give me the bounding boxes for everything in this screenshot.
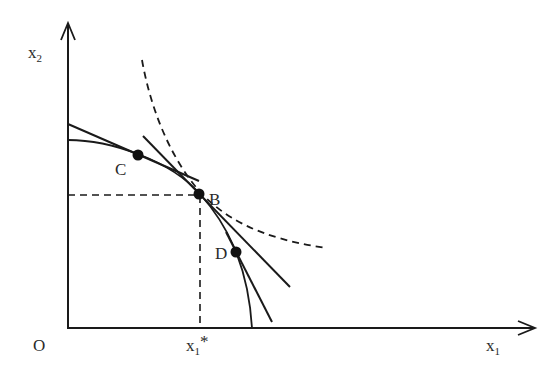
origin-label: O [33,336,45,355]
axes [61,23,535,335]
x-star-mark: * [200,332,209,351]
point-d-label: D [215,244,227,263]
point-d-marker [231,247,242,258]
production-frontier-curve [68,140,252,328]
point-b-marker [194,189,205,200]
tangent-line-b [143,136,290,287]
x-axis-label-sub: 1 [495,345,501,357]
diagram-canvas: C B D x2 O x1* x1 [0,0,560,370]
point-c-label: C [115,160,126,179]
x-star-label: x1* [186,332,209,357]
point-c-marker [133,150,144,161]
y-axis-label: x2 [28,43,42,64]
x-axis-label: x1 [486,336,500,357]
indifference-curve-dashed [142,60,327,248]
point-b-label: B [209,190,220,209]
y-axis-label-sub: 2 [37,52,43,64]
